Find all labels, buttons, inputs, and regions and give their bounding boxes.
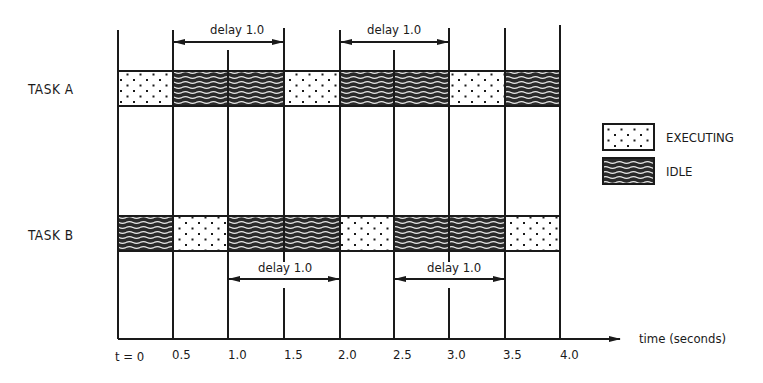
- timing-diagram: TASK A TASK B: [0, 0, 763, 383]
- tick-label: 0.5: [172, 347, 191, 362]
- delay-label: delay 1.0: [258, 260, 312, 275]
- tick-label: 4.0: [560, 347, 579, 362]
- legend-idle-label: IDLE: [666, 164, 692, 179]
- tick-label: t = 0: [115, 349, 144, 364]
- time-axis: time (seconds) t = 0 0.5 1.0 1.5 2.0 2.5…: [115, 331, 726, 364]
- tick-label: 1.0: [228, 347, 247, 362]
- delay-annotation-b1: delay 1.0: [229, 260, 339, 279]
- legend-idle-swatch: [603, 158, 654, 184]
- legend-executing-label: EXECUTING: [666, 130, 734, 145]
- tick-label: 3.5: [503, 347, 522, 362]
- delay-annotation-a2: delay 1.0: [341, 22, 448, 42]
- task-a-label: TASK A: [27, 81, 74, 97]
- delay-annotation-b2: delay 1.0: [395, 260, 504, 279]
- axis-label: time (seconds): [639, 331, 726, 346]
- tick-label: 2.5: [393, 347, 412, 362]
- tick-label: 1.5: [284, 347, 303, 362]
- delay-label: delay 1.0: [427, 260, 481, 275]
- delay-annotation-a1: delay 1.0: [174, 22, 283, 42]
- legend: EXECUTING IDLE: [603, 124, 734, 184]
- task-b-label: TASK B: [27, 227, 74, 243]
- tick-label: 2.0: [338, 347, 357, 362]
- delay-label: delay 1.0: [210, 22, 264, 37]
- tick-label: 3.0: [447, 347, 466, 362]
- legend-executing-swatch: [603, 124, 654, 150]
- delay-label: delay 1.0: [367, 22, 421, 37]
